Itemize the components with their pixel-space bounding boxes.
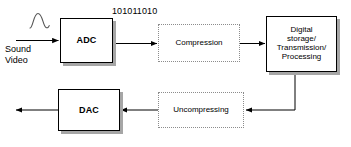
bitstream-label: 101011010 [112, 6, 157, 17]
diagram-canvas: Sound Video 101011010 ADC Compression Di… [0, 0, 351, 147]
node-uncompressing[interactable]: Uncompressing [158, 92, 244, 128]
sine-wave-icon [30, 14, 49, 29]
edge-storage-to-uncompressing [246, 72, 295, 110]
node-compression[interactable]: Compression [158, 24, 240, 62]
node-digital-storage[interactable]: Digital storage/ Transmission/ Processin… [266, 16, 337, 72]
node-adc[interactable]: ADC [60, 18, 113, 63]
node-dac-label: DAC [79, 105, 99, 115]
node-digital-storage-label: Digital storage/ Transmission/ Processin… [277, 26, 327, 62]
node-uncompressing-label: Uncompressing [173, 106, 229, 115]
node-adc-label: ADC [76, 35, 96, 45]
source-label: Sound Video [5, 44, 57, 67]
node-dac[interactable]: DAC [58, 89, 120, 131]
node-compression-label: Compression [175, 39, 222, 48]
